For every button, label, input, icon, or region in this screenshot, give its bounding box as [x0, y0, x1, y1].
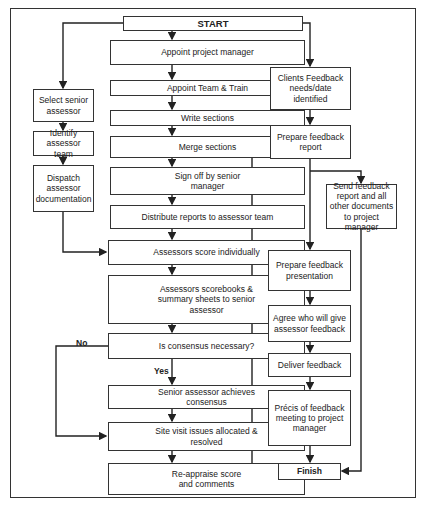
- no-label: No: [76, 338, 87, 348]
- clients-feedback-node: Clients Feedback needs/date identified: [270, 67, 351, 110]
- distribute-reports-node: Distribute reports to assessor team: [110, 205, 305, 229]
- prepare-presentation-node: Prepare feedback presentation: [268, 250, 351, 291]
- yes-label: Yes: [154, 366, 169, 376]
- agree-who-node: Agree who will give assessor feedback: [268, 305, 351, 342]
- select-senior-assessor-node: Select senior assessor: [33, 89, 94, 122]
- appoint-project-manager-node: Appoint project manager: [110, 40, 305, 65]
- sign-off-node: Sign off by senior manager: [110, 167, 305, 195]
- send-feedback-report-node: Send feedback report and all other docum…: [326, 184, 397, 229]
- write-sections-node: Write sections: [110, 110, 305, 126]
- deliver-feedback-node: Deliver feedback: [268, 353, 351, 377]
- precis-node: Précis of feedback meeting to project ma…: [268, 390, 351, 446]
- reappraise-node: Re-appraise score and comments: [108, 463, 305, 495]
- identify-assessor-team-node: Identify assessor team: [33, 131, 94, 156]
- finish-node: Finish: [278, 463, 341, 480]
- start-node: START: [123, 16, 303, 31]
- prepare-feedback-report-node: Prepare feedback report: [270, 125, 351, 159]
- dispatch-documentation-node: Dispatch assessor documentation: [33, 165, 94, 212]
